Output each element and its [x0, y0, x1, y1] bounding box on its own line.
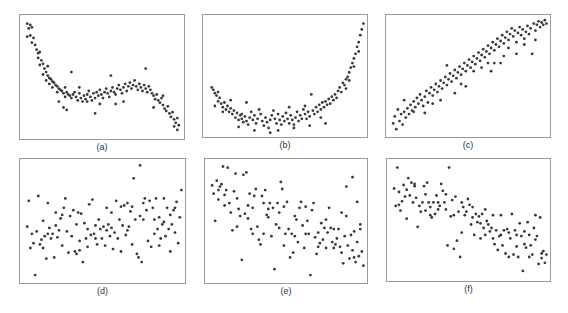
scatter-points — [386, 15, 552, 139]
caption-a: (a) — [82, 142, 122, 152]
scatter-points — [203, 15, 369, 139]
scatter-points — [387, 159, 552, 283]
caption-d: (d) — [83, 286, 123, 296]
scatter-panel-e — [204, 158, 368, 284]
scatter-panel-f — [386, 158, 551, 282]
scatter-panel-a — [19, 14, 185, 140]
caption-c: (c) — [448, 140, 488, 150]
caption-e: (e) — [266, 286, 306, 296]
scatter-points — [20, 159, 187, 285]
caption-f: (f) — [449, 284, 489, 294]
caption-b: (b) — [265, 140, 305, 150]
scatter-panel-c — [385, 14, 551, 138]
scatter-points — [205, 159, 369, 285]
scatter-panel-b — [202, 14, 368, 138]
scatter-points — [20, 15, 186, 141]
scatter-panel-d — [19, 158, 186, 284]
